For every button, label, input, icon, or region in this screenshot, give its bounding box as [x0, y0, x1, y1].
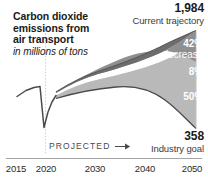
- projected-label: PROJECTED: [49, 141, 110, 151]
- page-title-line-1: Carbon dioxide: [13, 11, 117, 23]
- x-tick-2015: 2015: [6, 163, 26, 174]
- band-42-percent-value: 42%: [163, 38, 203, 49]
- band-50-percent-value: 50%: [183, 91, 203, 102]
- current-trajectory-annotation: 1,984 Current trajectory: [132, 2, 204, 26]
- industry-goal-value: 358: [151, 130, 204, 143]
- band-label-50-percent: 50%: [183, 91, 203, 102]
- industry-goal-annotation: 358 Industry goal: [151, 130, 204, 154]
- band-42-percent-word: decrease: [163, 49, 203, 60]
- projected-marker: PROJECTED: [49, 141, 131, 151]
- band-8-percent-value: 8%: [189, 66, 203, 77]
- historical-emissions-line: [17, 87, 56, 128]
- current-trajectory-label: Current trajectory: [132, 15, 204, 26]
- x-tick-2040: 2040: [135, 163, 155, 174]
- industry-goal-label: Industry goal: [151, 143, 204, 154]
- chart-container: Carbon dioxide emissions from air transp…: [0, 0, 208, 182]
- band-label-42-percent: 42% decrease: [163, 38, 203, 60]
- x-tick-2050: 2050: [182, 163, 202, 174]
- arrow-right-icon: [115, 143, 131, 150]
- x-tick-2030: 2030: [85, 163, 105, 174]
- page-title-line-3: air transport: [13, 34, 117, 46]
- x-axis: 2015 2020 2030 2040 2050: [0, 160, 208, 182]
- band-label-8-percent: 8%: [189, 66, 203, 77]
- chart-title-block: Carbon dioxide emissions from air transp…: [13, 11, 117, 58]
- current-trajectory-value: 1,984: [132, 2, 204, 15]
- x-tick-2020: 2020: [36, 163, 56, 174]
- chart-subtitle: in millions of tons: [13, 46, 117, 58]
